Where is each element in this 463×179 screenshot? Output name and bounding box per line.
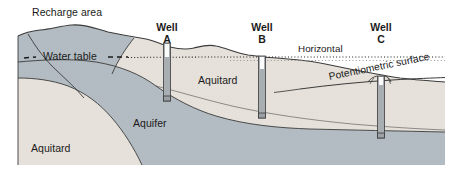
aquitard-lower-label: Aquitard (31, 143, 71, 154)
well-C-casing (378, 76, 385, 138)
hydrogeology-cross-section-figure: Recharge area Water table Horizontal Pot… (0, 0, 463, 179)
well-C-title: Well (364, 22, 398, 33)
well-B-water-column (260, 57, 264, 69)
aquitard-upper-label: Aquitard (198, 75, 238, 86)
well-A-name: A (150, 34, 184, 45)
well-B-structure[interactable] (259, 56, 266, 118)
well-A-screen (164, 96, 171, 101)
well-A-water-column (165, 44, 169, 57)
water-table-label: Water table (43, 51, 97, 62)
well-C-screen (378, 133, 385, 138)
horizontal-label: Horizontal (298, 44, 343, 54)
well-C-water-column (379, 77, 383, 85)
well-B-screen (259, 113, 266, 118)
recharge-area-label: Recharge area (32, 7, 102, 18)
well-A-structure[interactable] (164, 43, 171, 101)
well-B-title: Well (245, 22, 279, 33)
well-A-title: Well (150, 22, 184, 33)
well-C-name: C (364, 34, 398, 45)
aquifer-label: Aquifer (133, 118, 167, 129)
well-B-name: B (245, 34, 279, 45)
